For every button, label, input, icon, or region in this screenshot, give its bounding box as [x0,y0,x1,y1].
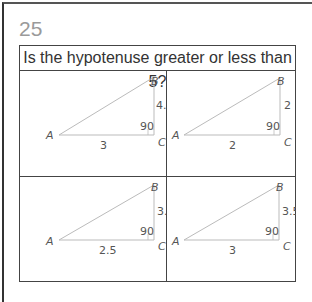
vertex-b-label: B [151,181,159,194]
question-number: 25 [19,17,42,41]
vertex-a-label: A [45,129,54,142]
triangle-cell: A B C 3 3.5 90 [167,177,296,282]
triangle-figure: A B C 3 3.5 90 [167,177,296,282]
base-length-label: 2 [229,139,236,152]
height-length-label: 2 [284,99,291,112]
angle-label: 90 [140,120,154,133]
vertex-b-label: B [151,75,159,88]
problem-table: Is the hypotenuse greater or less than 5… [19,45,296,282]
vertex-a-label: A [45,235,54,248]
triangle-cell: A B C 3 4.1 90 [20,71,166,176]
vertex-a-label: A [171,129,180,142]
triangle-figure: A B C 3 4.1 90 [20,71,166,176]
vertex-c-label: C [158,240,166,253]
triangle-cell: A B C 2.5 3.5 90 [20,177,166,282]
triangle-figure: A B C 2 2 90 [167,71,296,176]
vertex-c-label: C [284,136,292,149]
height-length-label: 4.1 [156,99,166,112]
angle-label: 90 [140,225,154,238]
height-length-label: 3.5 [157,205,166,218]
vertex-c-label: C [283,240,291,253]
triangle-figure: A B C 2.5 3.5 90 [20,177,166,282]
vertex-b-label: B [277,75,285,88]
vertex-b-label: B [276,181,284,194]
height-length-label: 3.5 [282,205,296,218]
vertex-c-label: C [158,136,166,149]
base-length-label: 2.5 [99,244,117,257]
angle-label: 90 [265,225,279,238]
base-length-label: 3 [229,244,236,257]
triangle-cell: A B C 2 2 90 [167,71,296,176]
question-title: Is the hypotenuse greater or less than 5… [20,46,295,71]
vertex-a-label: A [171,235,180,248]
angle-label: 90 [266,120,280,133]
base-length-label: 3 [100,139,107,152]
